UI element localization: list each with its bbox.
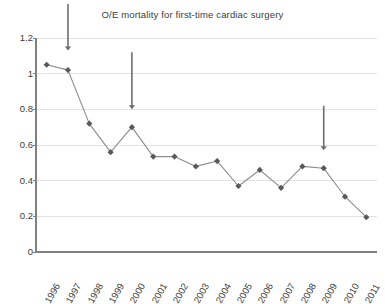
x-axis-tick-label: 2009 (320, 282, 339, 304)
x-axis-tick-label: 2001 (150, 282, 169, 304)
x-axis-tick-label: 2005 (235, 282, 254, 304)
x-axis-tick-label: 2004 (214, 282, 233, 304)
x-axis-tick-label: 2011 (363, 282, 382, 304)
x-axis-tick-label: 2006 (256, 282, 275, 304)
x-axis-tick-label: 2000 (128, 282, 147, 304)
x-axis-tick-label: 2010 (342, 282, 361, 304)
x-axis-tick-label: 2008 (299, 282, 318, 304)
x-axis-tick-label: 2003 (192, 282, 211, 304)
chart-container: O/E mortality for first-time cardiac sur… (0, 0, 385, 304)
x-axis-tick-label: 1999 (107, 282, 126, 304)
x-axis-tick-labels: 1996199719981999200020012002200320042005… (0, 0, 385, 304)
x-axis-tick-label: 2002 (171, 282, 190, 304)
x-axis-tick-label: 2007 (278, 282, 297, 304)
x-axis-tick-label: 1997 (64, 282, 83, 304)
x-axis-tick-label: 1996 (43, 282, 62, 304)
x-axis-tick-label: 1998 (86, 282, 105, 304)
